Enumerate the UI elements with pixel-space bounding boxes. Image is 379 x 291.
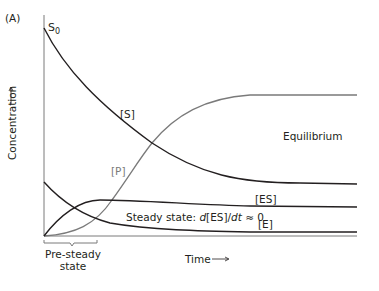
y-axis-label: Concentration: [6, 86, 18, 160]
pre-steady-state-label: Pre-steady state: [44, 248, 102, 272]
panel-label: (A): [5, 12, 20, 24]
pre-steady-brace: [44, 240, 97, 246]
x-axis-label: Time: [185, 253, 211, 265]
s0-label: S0: [48, 22, 60, 38]
pre-steady-line2: state: [44, 260, 102, 272]
pre-steady-line1: Pre-steady: [44, 248, 102, 260]
p-curve-label: [P]: [111, 165, 126, 177]
es-curve-label: [ES]: [255, 193, 277, 205]
steady-state-label: Steady state: d[ES]/dt ≈ 0: [126, 211, 264, 223]
s-curve-label: [S]: [120, 108, 135, 120]
equilibrium-label: Equilibrium: [283, 130, 343, 142]
